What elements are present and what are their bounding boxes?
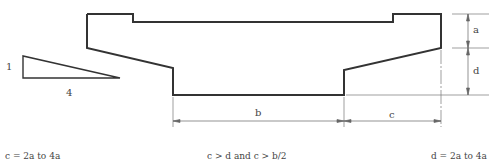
- slope-rise-label: 1: [6, 62, 12, 72]
- caption-left: c = 2a to 4a: [5, 151, 60, 161]
- cross-section-diagram: [0, 0, 489, 167]
- caption-middle: c > d and c > b/2: [207, 151, 287, 161]
- slope-run-label: 4: [66, 88, 72, 98]
- dimension-lines: [173, 14, 470, 123]
- dimension-b-label: b: [255, 108, 261, 118]
- dimension-c-label: c: [389, 110, 395, 120]
- caption-right: d = 2a to 4a: [431, 151, 487, 161]
- slope-triangle: [23, 56, 120, 78]
- dimension-d-label: d: [473, 66, 479, 76]
- dimension-a-label: a: [473, 25, 479, 35]
- section-outline: [87, 14, 441, 95]
